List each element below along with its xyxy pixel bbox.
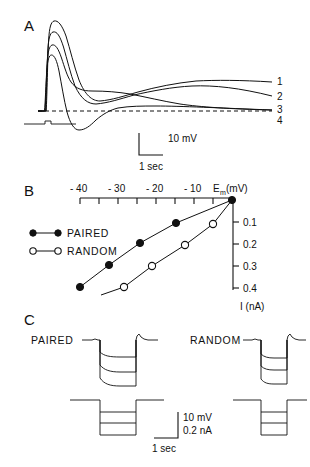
panel-a-trace-label-1: 1: [277, 76, 283, 87]
panel-a-scale-voltage: 10 mV: [168, 133, 197, 144]
panel-a-trace-4: [38, 55, 272, 130]
panel-c-scale-time: 1 sec: [152, 443, 176, 454]
panel-b-x-axis: [80, 198, 233, 204]
panel-b-ytick-01: 0.1: [243, 217, 257, 228]
panel-c-scale-current: 0.2 nA: [183, 425, 212, 436]
panel-b-series-paired: [76, 196, 235, 290]
panel-c-label-random: RANDOM: [190, 334, 241, 346]
panel-c: C PAIRED RANDOM: [24, 311, 307, 454]
panel-b-legend: PAIRED RANDOM: [30, 227, 117, 257]
legend-marker-filled-circle-2: [55, 230, 61, 236]
figure-root: A 1 2 3 4 10 mV 1 sec B: [0, 0, 310, 467]
panel-b-y-axis-title: I (nA): [240, 301, 264, 312]
panel-a-label: A: [24, 17, 35, 34]
legend-marker-open-circle-2: [55, 248, 61, 254]
panel-b-point-paired-1: [76, 283, 83, 290]
panel-b-point-random-4: [209, 220, 216, 227]
legend-marker-open-circle: [30, 248, 36, 254]
panel-b-legend-label-paired: PAIRED: [67, 227, 109, 239]
panel-b-label: B: [24, 182, 35, 199]
panel-b-x-title-unit: (mV): [226, 183, 248, 194]
panel-b-xtick-minus30: - 30: [108, 183, 126, 194]
panel-c-scalebar: 10 mV 0.2 nA 1 sec: [152, 412, 212, 454]
panel-b: B - 40 - 30 - 20 - 10 E m (mV): [24, 182, 264, 312]
panel-b-ytick-02: 0.2: [243, 239, 257, 250]
panel-b-xtick-minus10: - 10: [184, 183, 202, 194]
panel-a-scalebar: 10 mV 1 sec: [139, 133, 197, 172]
panel-a: A 1 2 3 4 10 mV 1 sec: [24, 17, 283, 172]
panel-a-trace-3: [38, 45, 272, 111]
panel-b-x-title-em: E: [213, 183, 220, 194]
panel-b-point-random-3: [181, 241, 188, 248]
panel-b-xtick-minus20: - 20: [146, 183, 164, 194]
panel-a-stimulus-marker: [24, 121, 76, 124]
panel-b-x-axis-title: E m (mV): [213, 183, 248, 196]
panel-b-y-axis: [233, 200, 239, 290]
panel-b-xtick-minus40: - 40: [70, 183, 88, 194]
panel-b-series-random: [101, 200, 232, 295]
panel-b-legend-label-random: RANDOM: [67, 245, 117, 257]
panel-b-point-random-1: [120, 283, 127, 290]
panel-b-point-paired-4: [172, 219, 179, 226]
panel-c-current-steps-paired: [70, 400, 164, 435]
panel-b-point-paired-3: [136, 239, 143, 246]
panel-b-point-paired-2: [105, 261, 112, 268]
panel-b-point-random-2: [148, 262, 155, 269]
panel-b-ytick-04: 0.4: [243, 283, 257, 294]
panel-c-scale-voltage: 10 mV: [183, 412, 212, 423]
panel-c-label-paired: PAIRED: [31, 334, 74, 346]
panel-c-group-paired: PAIRED: [31, 334, 164, 435]
panel-a-scale-time: 1 sec: [139, 161, 163, 172]
panel-a-trace-label-4: 4: [277, 115, 283, 126]
panel-b-legend-item-random: RANDOM: [30, 245, 117, 257]
panel-a-trace-label-2: 2: [277, 91, 283, 102]
legend-marker-filled-circle: [30, 230, 36, 236]
panel-c-label: C: [24, 311, 35, 328]
panel-b-legend-item-paired: PAIRED: [30, 227, 109, 239]
panel-c-voltage-traces-random: [243, 334, 306, 384]
panel-c-voltage-traces-paired: [82, 334, 158, 386]
panel-b-ytick-03: 0.3: [243, 261, 257, 272]
panel-a-trace-1: [38, 21, 272, 111]
panel-a-trace-label-3: 3: [277, 104, 283, 115]
figure-canvas: A 1 2 3 4 10 mV 1 sec B: [0, 0, 310, 467]
panel-c-current-steps-random: [233, 400, 307, 435]
